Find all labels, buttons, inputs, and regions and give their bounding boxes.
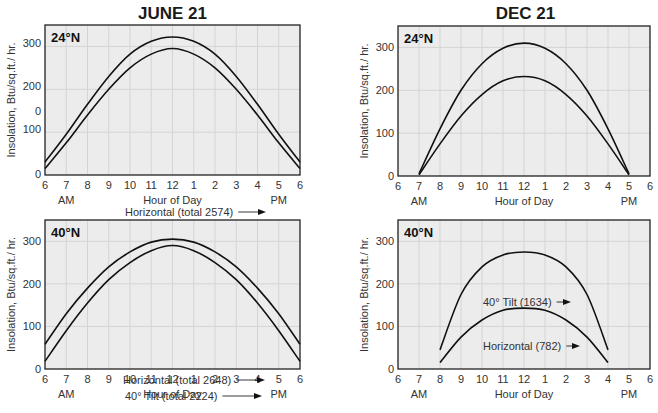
- x-tick-label: 5: [276, 373, 282, 385]
- pm-label: PM: [271, 194, 288, 206]
- x-tick-label: 2: [563, 180, 569, 192]
- x-tick-label: 6: [42, 373, 48, 385]
- series-annotation: Horizontal (total 2648): [123, 374, 231, 386]
- latitude-label: 40°N: [404, 225, 433, 240]
- chart-panel-4: 40°N30020010006789101112123456AMHour of …: [358, 220, 653, 400]
- series-annotation: 40° Tilt (total 2224): [125, 390, 217, 402]
- y-tick-label: 0: [35, 105, 41, 117]
- x-axis-title: Hour of Day: [495, 388, 554, 400]
- x-tick-label: 3: [584, 373, 590, 385]
- y-tick-label: 0: [35, 363, 41, 375]
- x-tick-label: 3: [233, 373, 239, 385]
- x-tick-label: 4: [254, 179, 260, 191]
- pm-label: PM: [271, 388, 288, 400]
- y-axis-title: Insolation, Btu/sq.ft./ hr.: [358, 237, 370, 352]
- y-tick-label: 100: [376, 127, 394, 139]
- chart-canvas: 24°N300200010006789101112123456AMHour of…: [0, 0, 658, 413]
- pm-label: PM: [621, 195, 638, 207]
- x-tick-label: 9: [106, 373, 112, 385]
- x-tick-label: 7: [63, 179, 69, 191]
- y-tick-label: 300: [376, 41, 394, 53]
- chart-panel-3: 40°N30020010006789101112123456AMHour of …: [5, 220, 303, 402]
- pm-label: PM: [621, 388, 638, 400]
- x-tick-label: 3: [233, 179, 239, 191]
- x-axis-title: Hour of Day: [143, 194, 202, 206]
- x-tick-label: 1: [542, 373, 548, 385]
- x-tick-label: 6: [42, 179, 48, 191]
- x-tick-label: 8: [84, 179, 90, 191]
- y-axis-title: Insolation, Btu/sq.ft./ hr.: [358, 44, 370, 159]
- x-tick-label: 6: [395, 180, 401, 192]
- y-tick-label: 300: [23, 37, 41, 49]
- y-axis-title: Insolation, Btu/sq.ft./ hr.: [5, 237, 17, 352]
- x-tick-label: 6: [395, 373, 401, 385]
- x-tick-label: 6: [647, 373, 653, 385]
- x-tick-label: 10: [476, 180, 488, 192]
- y-tick-label: 0: [35, 168, 41, 180]
- x-tick-label: 10: [476, 373, 488, 385]
- x-tick-label: 1: [191, 179, 197, 191]
- x-tick-label: 3: [584, 180, 590, 192]
- arrow-icon: [254, 393, 262, 399]
- x-tick-label: 7: [416, 180, 422, 192]
- x-tick-label: 9: [458, 180, 464, 192]
- arrow-icon: [258, 209, 266, 215]
- y-tick-label: 300: [376, 235, 394, 247]
- x-tick-label: 5: [626, 180, 632, 192]
- x-tick-label: 12: [166, 179, 178, 191]
- latitude-label: 40°N: [51, 225, 80, 240]
- x-tick-label: 5: [276, 179, 282, 191]
- x-tick-label: 9: [458, 373, 464, 385]
- y-tick-label: 100: [23, 123, 41, 135]
- x-tick-label: 6: [297, 179, 303, 191]
- y-tick-label: 200: [23, 80, 41, 92]
- x-tick-label: 2: [212, 179, 218, 191]
- x-tick-label: 4: [605, 180, 611, 192]
- x-tick-label: 6: [297, 373, 303, 385]
- x-tick-label: 10: [124, 179, 136, 191]
- am-label: AM: [58, 388, 75, 400]
- x-tick-label: 9: [106, 179, 112, 191]
- x-tick-label: 11: [497, 180, 508, 192]
- y-tick-label: 300: [23, 235, 41, 247]
- x-tick-label: 8: [84, 373, 90, 385]
- y-tick-label: 100: [376, 320, 394, 332]
- y-tick-label: 0: [388, 170, 394, 182]
- series-annotation: Horizontal (782): [483, 340, 561, 352]
- x-tick-label: 2: [563, 373, 569, 385]
- y-tick-label: 0: [388, 363, 394, 375]
- latitude-label: 24°N: [404, 31, 433, 46]
- series-annotation: 40° Tilt (1634): [483, 296, 552, 308]
- x-tick-label: 12: [518, 180, 530, 192]
- am-label: AM: [58, 194, 75, 206]
- x-tick-label: 8: [437, 373, 443, 385]
- x-tick-label: 1: [542, 180, 548, 192]
- x-tick-label: 7: [416, 373, 422, 385]
- am-label: AM: [411, 388, 428, 400]
- x-tick-label: 4: [605, 373, 611, 385]
- x-tick-label: 11: [146, 179, 157, 191]
- am-label: AM: [411, 195, 428, 207]
- y-tick-label: 200: [376, 278, 394, 290]
- y-tick-label: 200: [376, 84, 394, 96]
- series-annotation: Horizontal (total 2574): [125, 206, 233, 218]
- x-tick-label: 5: [626, 373, 632, 385]
- y-axis-title: Insolation, Btu/sq.ft./ hr.: [5, 43, 17, 158]
- x-tick-label: 8: [437, 180, 443, 192]
- x-tick-label: 6: [647, 180, 653, 192]
- arrow-icon: [257, 377, 265, 383]
- x-tick-label: 11: [497, 373, 508, 385]
- chart-panel-1: 24°N300200010006789101112123456AMHour of…: [5, 25, 303, 234]
- y-tick-label: 100: [23, 320, 41, 332]
- x-tick-label: 12: [518, 373, 530, 385]
- latitude-label: 24°N: [51, 30, 80, 45]
- y-tick-label: 200: [23, 278, 41, 290]
- x-tick-label: 7: [63, 373, 69, 385]
- x-axis-title: Hour of Day: [495, 195, 554, 207]
